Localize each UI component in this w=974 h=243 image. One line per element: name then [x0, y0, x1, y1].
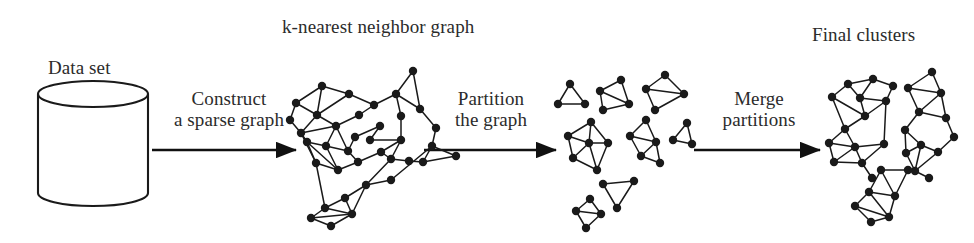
partition-p7-edge — [617, 181, 634, 208]
final-f3-node — [885, 213, 893, 221]
partition-p3-node — [680, 90, 688, 98]
final-f2-node — [925, 174, 933, 182]
final-clusters-caption: Final clusters — [812, 24, 915, 45]
knn-graph-node — [307, 214, 315, 222]
final-f1-node — [869, 75, 877, 83]
knn-graph-edge — [423, 156, 456, 162]
partition-p3-node — [642, 85, 650, 93]
partition-cluster — [596, 76, 633, 114]
partition-p5-node — [652, 138, 660, 146]
knn-graph-node — [354, 158, 362, 166]
knn-graph-node — [419, 158, 427, 166]
final-f3-node — [891, 192, 899, 200]
knn-graph-node — [452, 152, 460, 160]
partition-cluster — [564, 118, 612, 174]
knn-graph-node — [362, 181, 370, 189]
partitioned-subgraphs-figure — [554, 71, 696, 232]
partition-p2-node — [625, 100, 633, 108]
partition-p7-node — [599, 180, 607, 188]
final-clusters-figure — [825, 68, 958, 226]
knn-graph-node — [345, 90, 353, 98]
partition-cluster — [642, 71, 688, 114]
knn-graph-node — [344, 147, 352, 155]
final-f1-node — [889, 82, 897, 90]
partition-cluster — [599, 177, 638, 212]
final-f1-node — [882, 97, 890, 105]
final-f2-node — [904, 84, 912, 92]
final-f1-node — [828, 93, 836, 101]
knn-graph-node — [397, 136, 405, 144]
final-f1-node — [880, 140, 888, 148]
partition-p3-edge — [646, 89, 684, 94]
final-f3-node — [865, 188, 873, 196]
final-f3-nodes — [851, 166, 912, 226]
partition-p6-nodes — [669, 119, 696, 148]
final-f2-edge — [908, 88, 941, 93]
partition-p6-node — [688, 140, 696, 148]
knn-graph-node — [313, 111, 321, 119]
final-f1-node — [841, 125, 849, 133]
knn-graph-edge — [413, 71, 420, 109]
final-f2-node — [915, 108, 923, 116]
partition-p7-edges — [603, 181, 634, 208]
partition-p4-node — [604, 139, 612, 147]
knn-graph-node — [366, 136, 374, 144]
final-f1-node — [825, 139, 833, 147]
partition-p5-nodes — [626, 116, 664, 167]
knn-graph-node — [348, 210, 356, 218]
knn-graph-edge — [317, 86, 322, 115]
partition-p5-node — [642, 116, 650, 124]
step-label-merge-line2: partitions — [700, 109, 818, 130]
partition-p3-nodes — [642, 71, 688, 114]
final-f2-node — [902, 149, 910, 157]
partition-p8-node — [597, 210, 605, 218]
knn-graph-edge — [317, 94, 349, 115]
partition-p2-node — [617, 76, 625, 84]
final-f1-edge — [884, 101, 886, 144]
partition-p1-node — [581, 100, 589, 108]
final-f2-node — [928, 68, 936, 76]
partition-p4-node — [564, 132, 572, 140]
partition-cluster — [572, 195, 605, 232]
knn-graph-node — [392, 90, 400, 98]
partition-p2-node — [596, 87, 604, 95]
final-f3-edge — [895, 170, 908, 196]
final-f2-edges — [905, 72, 954, 178]
final-f1-node — [861, 112, 869, 120]
knn-graph-node — [355, 111, 363, 119]
partition-cluster — [626, 116, 664, 167]
knn-graph-node — [387, 155, 395, 163]
final-f2-node — [934, 148, 942, 156]
knn-graph-edge — [322, 86, 349, 94]
final-f3-edge — [881, 170, 895, 196]
partition-p2-node — [599, 106, 607, 114]
final-f3-node — [867, 218, 875, 226]
data-set-caption: Data set — [48, 57, 111, 78]
step-label-merge: Merge partitions — [700, 88, 818, 131]
final-f1-edge — [834, 162, 862, 163]
final-cluster — [901, 68, 958, 182]
knn-graph-node — [334, 166, 342, 174]
final-f1-node — [830, 158, 838, 166]
step-label-construct-line1: Construct — [160, 88, 298, 109]
step-label-partition-line1: Partition — [435, 88, 547, 109]
partition-p8-node — [586, 195, 594, 203]
step-label-construct-line2: a sparse graph — [160, 109, 298, 130]
knn-graph-edge — [396, 71, 413, 94]
partition-p8-node — [572, 207, 580, 215]
partition-p5-node — [626, 132, 634, 140]
final-f2-node — [917, 141, 925, 149]
final-f2-edge — [919, 93, 941, 112]
knn-graph-node — [327, 222, 335, 230]
knn-graph-node — [297, 129, 305, 137]
knn-graph-node — [387, 176, 395, 184]
knn-graph-node — [322, 142, 330, 150]
final-f2-node — [901, 126, 909, 134]
partition-p6-node — [683, 119, 691, 127]
final-f1-edge — [832, 97, 845, 129]
partition-p8-nodes — [572, 195, 605, 232]
final-f3-node — [851, 202, 859, 210]
partition-p1-node — [554, 100, 562, 108]
partition-p2-edges — [600, 80, 629, 110]
partition-p3-edges — [646, 75, 684, 110]
